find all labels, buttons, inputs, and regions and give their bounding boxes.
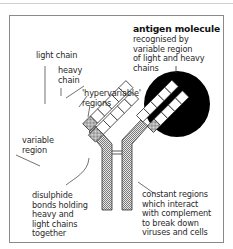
variable-region-label: variable region [22,136,54,155]
disulphide-bonds-label: disulphide bonds holding heavy and light… [32,191,88,239]
antigen-title-label: antigen molecule [133,24,220,34]
light-chain-label: light chain [36,51,77,61]
hypervariable-regions-label: 'hypervariable' regions [82,89,141,108]
heavy-chain-label: heavy chain [58,66,82,85]
constant-regions-label: constant regions which interact with com… [142,190,211,238]
antigen-description-label: recognised by variable region of light a… [133,35,204,73]
